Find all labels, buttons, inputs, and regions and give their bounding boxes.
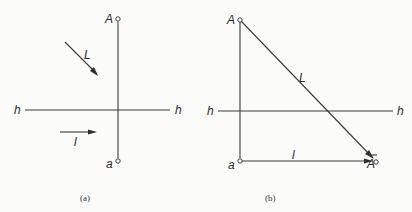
point-a-icon: [116, 159, 120, 163]
point-A-icon: [238, 18, 242, 22]
caption-b: (b): [265, 193, 276, 203]
label-l: l: [292, 148, 295, 162]
label-h-left: h: [207, 104, 214, 118]
label-L: L: [84, 48, 91, 62]
figure-canvas: A a h h L l (a) A a: [0, 0, 412, 212]
arrow-L-shaft: [65, 42, 96, 73]
label-h-right: h: [175, 103, 182, 117]
label-a: a: [106, 157, 113, 171]
label-a: a: [228, 158, 235, 172]
panel-a: A a h h L l (a): [14, 12, 182, 203]
label-A: A: [226, 13, 235, 27]
caption-a: (a): [80, 193, 90, 203]
panel-b: A a h h L l A (b): [207, 13, 404, 203]
label-h-right: h: [397, 104, 404, 118]
arrow-l-head-icon: [88, 130, 97, 135]
point-A-icon: [116, 17, 120, 21]
point-a-icon: [238, 159, 242, 163]
diagram-svg: A a h h L l (a) A a: [0, 0, 412, 212]
hypotenuse-L: [241, 21, 370, 155]
label-L: L: [299, 71, 306, 85]
label-A-bar: A: [366, 157, 375, 171]
label-A: A: [104, 12, 113, 26]
label-h-left: h: [14, 103, 21, 117]
label-l: l: [74, 135, 77, 149]
